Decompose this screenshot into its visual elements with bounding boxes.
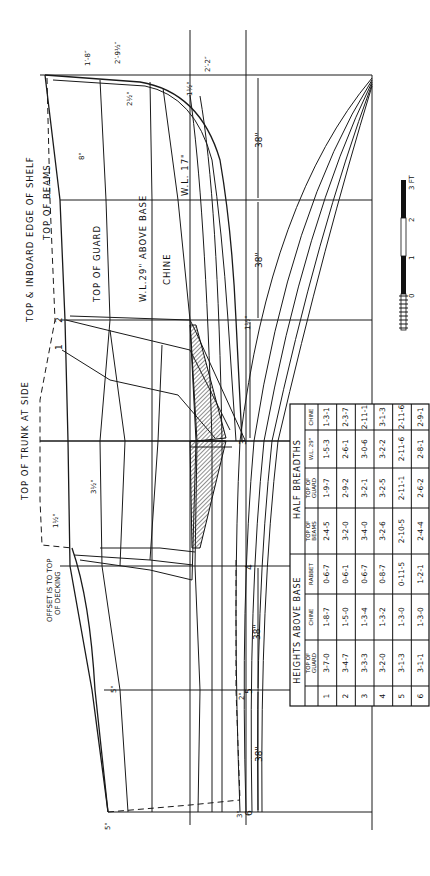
table-cell: 2-4-5 — [322, 521, 331, 541]
section-5 — [74, 555, 193, 565]
dim-deck-offset: 1½" — [52, 514, 60, 528]
table-column-header: W.L. 29" — [308, 438, 314, 461]
table-column-header: RABBET — [308, 562, 314, 584]
section-6 — [100, 548, 195, 552]
dim-bow-small-2: 2½" — [126, 92, 134, 106]
table-cell: 2-3-7 — [341, 407, 350, 427]
table-cell: 1-3-2 — [378, 607, 387, 627]
scale-label-2: 2 — [408, 218, 416, 222]
scale-segment-2 — [401, 218, 406, 256]
dim-trunk-offset: 3½" — [90, 480, 98, 494]
dim-station3-note: 1½" — [244, 316, 252, 330]
table-cell: 3-1-1 — [416, 653, 425, 673]
hull-lines-drawing: TOP & INBOARD EDGE OF SHELF TOP OF BEAMS… — [0, 0, 430, 876]
table-cell: 2-11-6 — [397, 437, 406, 462]
table-cell: 2-6-2 — [416, 478, 425, 498]
table-cell: 1-3-0 — [416, 607, 425, 627]
table-cell: 0-11-5 — [397, 562, 406, 587]
table-cell: 3-2-5 — [378, 478, 387, 498]
table-station-cell: 6 — [416, 693, 425, 698]
section-curves — [62, 316, 245, 580]
top-of-guard-line — [100, 80, 128, 812]
dim-bow-top-1: 1′-8″ — [84, 50, 92, 66]
table-column-header: BEAMS — [311, 521, 317, 541]
label-offset-note-2: OF DECKING — [54, 571, 62, 615]
label-top-of-guard: TOP OF GUARD — [92, 225, 102, 303]
label-wl-17: W.L. 17" — [180, 153, 190, 196]
table-station-cell: 5 — [397, 693, 406, 698]
label-chine: CHINE — [162, 253, 172, 285]
table-station-cell: 2 — [341, 693, 350, 698]
table-cell: 1-3-0 — [397, 607, 406, 627]
scale-segment-1 — [401, 180, 406, 218]
table-cell: 2-11-1 — [360, 405, 369, 430]
scale-label-0: 0 — [408, 294, 416, 298]
scale-segment-3 — [401, 256, 406, 294]
dim-stern-5: 5" — [110, 685, 118, 693]
table-column-header: GUARD — [311, 653, 317, 673]
scale-bar: 0 1 2 3 FT — [399, 174, 416, 330]
table-cell: 3-2-2 — [378, 439, 387, 459]
table-cell: 3-0-6 — [360, 439, 369, 459]
dim-bow-small-1: 1½" — [186, 82, 194, 96]
hatched-stem — [190, 325, 232, 548]
station-number-3: 3 — [238, 439, 248, 445]
table-cell: 0-6-7 — [322, 564, 331, 584]
table-cell: 3-1-3 — [378, 407, 387, 427]
label-top-of-trunk-at-side: TOP OF TRUNK AT SIDE — [20, 381, 30, 501]
spacing-label-3: 38" — [252, 624, 262, 640]
table-cell: 0-8-7 — [378, 564, 387, 584]
table-cell: 1-5-3 — [322, 439, 331, 459]
body-line-a — [110, 330, 125, 566]
table-station-cell: 3 — [360, 693, 369, 698]
spacing-label-2: 38" — [254, 252, 264, 268]
label-top-of-beams: TOP OF BEAMS — [42, 164, 52, 241]
table-group-half-breadths: HALF BREADTHS — [293, 439, 302, 519]
scale-ticks — [399, 294, 408, 330]
table-cell: 2-9-1 — [416, 407, 425, 427]
table-cell: 3-7-0 — [322, 653, 331, 673]
spacing-label-1: 38" — [254, 132, 264, 148]
table-cell: 3-4-0 — [360, 521, 369, 541]
table-cell: 3-2-6 — [378, 521, 387, 541]
spacing-label-4: 38" — [254, 746, 264, 762]
table-station-cell: 1 — [322, 693, 331, 698]
table-cell: 2-11-6 — [397, 405, 406, 430]
dim-stern-3: 3" — [236, 810, 244, 818]
table-cell: 1-3-4 — [360, 607, 369, 627]
table-cell: 3-2-1 — [360, 478, 369, 498]
offsets-table: HEIGHTS ABOVE BASEHALF BREADTHSTOP OFGUA… — [290, 404, 429, 706]
label-wl-29-above-base: W.L.29" ABOVE BASE — [138, 195, 148, 302]
table-station-cell: 4 — [378, 693, 387, 698]
table-cell: 3-1-3 — [397, 653, 406, 673]
wl-29-line — [150, 82, 152, 812]
scale-label-1: 1 — [408, 256, 416, 260]
station-number-2: 2 — [54, 317, 64, 323]
label-top-inboard-edge-of-shelf: TOP & INBOARD EDGE OF SHELF — [25, 156, 35, 323]
station-number-1: 1 — [54, 344, 64, 350]
table-cell: 3-2-0 — [378, 653, 387, 673]
table-cell: 0-6-1 — [341, 564, 350, 584]
label-offset-note-1: OFFSET IS TO TOP — [46, 558, 54, 622]
table-cell: 2-11-1 — [397, 476, 406, 501]
table-cell: 2-10-5 — [397, 519, 406, 544]
dim-stern-5b: 5" — [104, 822, 112, 830]
sheer-line — [45, 75, 108, 812]
table-cell: 1-3-1 — [322, 407, 331, 427]
dim-stern-2: 2" — [238, 692, 246, 700]
dim-bow-top-2: 2′-9½″ — [114, 41, 122, 64]
table-column-header: CHINE — [308, 408, 314, 426]
station-number-6: 6 — [244, 810, 254, 816]
table-cell: 3-2-0 — [341, 521, 350, 541]
deck-dashed-line — [40, 78, 72, 548]
table-cell: 1-9-7 — [322, 478, 331, 498]
table-cell: 3-4-7 — [341, 653, 350, 673]
table-cell: 0-6-7 — [360, 564, 369, 584]
dim-beam-offset: 8" — [78, 152, 86, 160]
table-cell: 1-5-0 — [341, 607, 350, 627]
scale-label-3ft: 3 FT — [408, 174, 416, 190]
dim-bow-top-3: 2′-2″ — [204, 56, 212, 72]
table-cell: 2-9-2 — [341, 478, 350, 498]
labels: TOP & INBOARD EDGE OF SHELF TOP OF BEAMS… — [20, 41, 264, 830]
station-number-4: 4 — [244, 564, 254, 570]
